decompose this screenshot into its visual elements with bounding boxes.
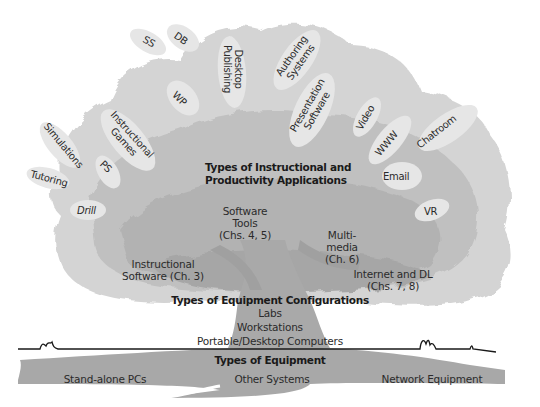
branch-multimedia-line1: Multi- <box>320 229 364 241</box>
root-item-other-systems: Other Systems <box>222 373 322 385</box>
trunk-item-labs: Labs <box>240 307 300 319</box>
leaf-desktop-publishing-line1: Desktop <box>233 41 244 97</box>
branch-multimedia-line3: (Ch. 6) <box>320 253 364 265</box>
leaf-vr: VR <box>424 206 437 217</box>
branch-internet-dl-line1: Internet and DL <box>350 268 436 280</box>
branch-software-tools-line1: Software <box>215 205 275 217</box>
trunk-item-portable-desktop: Portable/Desktop Computers <box>180 335 360 347</box>
branch-instructional-software-line1: Instructional <box>118 258 208 270</box>
branch-multimedia: Multi- media (Ch. 6) <box>320 229 364 265</box>
tree-diagram: SS DB Desktop Publishing Authoring Syste… <box>0 0 540 407</box>
leaf-drill: Drill <box>77 205 96 216</box>
branch-software-tools: Software Tools (Chs. 4, 5) <box>215 205 275 241</box>
branch-internet-dl-line2: (Chs. 7, 8) <box>350 280 436 292</box>
root-item-standalone-pcs: Stand-alone PCs <box>50 373 160 385</box>
branch-multimedia-line2: media <box>320 241 364 253</box>
leaf-desktop-publishing: Desktop Publishing <box>222 41 244 97</box>
branch-software-tools-line3: (Chs. 4, 5) <box>215 229 275 241</box>
crown-heading-line2: Productivity Applications <box>205 174 339 187</box>
branch-instructional-software: Instructional Software (Ch. 3) <box>118 258 208 282</box>
roots-heading: Types of Equipment <box>200 354 340 367</box>
leaf-desktop-publishing-line2: Publishing <box>222 41 233 97</box>
trunk-heading: Types of Equipment Configurations <box>160 294 380 307</box>
branch-software-tools-line2: Tools <box>215 217 275 229</box>
crown-heading-line1: Types of Instructional and <box>205 161 339 174</box>
branch-internet-dl: Internet and DL (Chs. 7, 8) <box>350 268 436 292</box>
leaf-email: Email <box>383 171 409 182</box>
crown-heading: Types of Instructional and Productivity … <box>205 161 339 187</box>
root-item-network-equipment: Network Equipment <box>372 373 492 385</box>
branch-instructional-software-line2: Software (Ch. 3) <box>118 270 208 282</box>
trunk-item-workstations: Workstations <box>220 321 320 333</box>
